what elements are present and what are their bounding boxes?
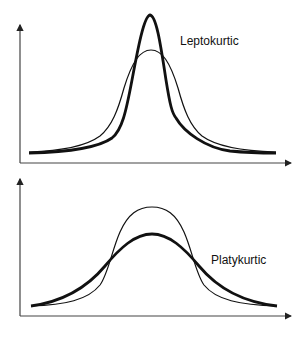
axes [20, 179, 291, 316]
platykurtic-curve [31, 234, 277, 306]
platykurtic-panel: Platykurtic [0, 0, 307, 338]
platykurtic-label: Platykurtic [211, 253, 266, 267]
platykurtic-plot [0, 0, 307, 338]
